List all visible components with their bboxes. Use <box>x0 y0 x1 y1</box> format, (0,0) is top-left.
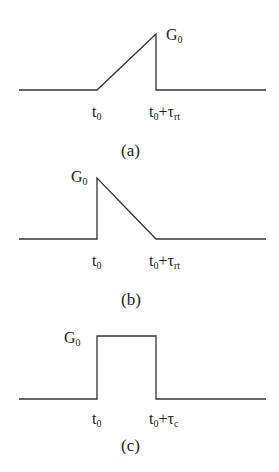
start-time-label-b: t0 <box>92 253 101 271</box>
start-time-label-c: t0 <box>92 411 101 429</box>
caption-a: (a) <box>121 142 140 159</box>
caption-b: (b) <box>121 291 141 308</box>
caption-c: (c) <box>121 437 140 454</box>
end-time-label-c: t0+τc <box>149 411 178 429</box>
waveform-b <box>19 178 266 239</box>
end-time-label-b: t0+τrt <box>149 253 180 271</box>
waveform-diagram <box>0 0 279 472</box>
end-time-label-a: t0+τrt <box>149 104 180 122</box>
amplitude-label-c: G0 <box>64 330 81 348</box>
amplitude-label-a: G0 <box>166 27 183 45</box>
amplitude-label-b: G0 <box>71 169 88 187</box>
waveform-c <box>19 336 266 399</box>
waveform-a <box>19 34 266 90</box>
start-time-label-a: t0 <box>92 104 101 122</box>
